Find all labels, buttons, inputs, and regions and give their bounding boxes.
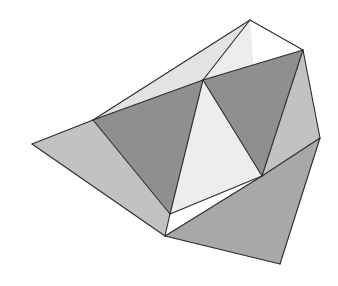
geometric-figure-svg [0, 0, 338, 286]
figure-canvas [0, 0, 338, 286]
